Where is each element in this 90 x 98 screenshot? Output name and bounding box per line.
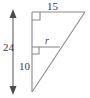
arrowhead-down-icon (10, 86, 17, 95)
outer-triangle (32, 12, 85, 92)
arrowhead-up-icon (10, 9, 17, 18)
label-top-side: 15 (47, 1, 58, 12)
label-total-height: 24 (3, 42, 14, 53)
label-interior-segment: r (45, 36, 49, 46)
geometry-figure: 15 24 10 r (0, 0, 90, 98)
label-lower-segment: 10 (19, 61, 30, 72)
hypotenuse (32, 12, 85, 92)
right-angle-middle-icon (32, 47, 39, 54)
right-angle-top-icon (32, 12, 40, 20)
